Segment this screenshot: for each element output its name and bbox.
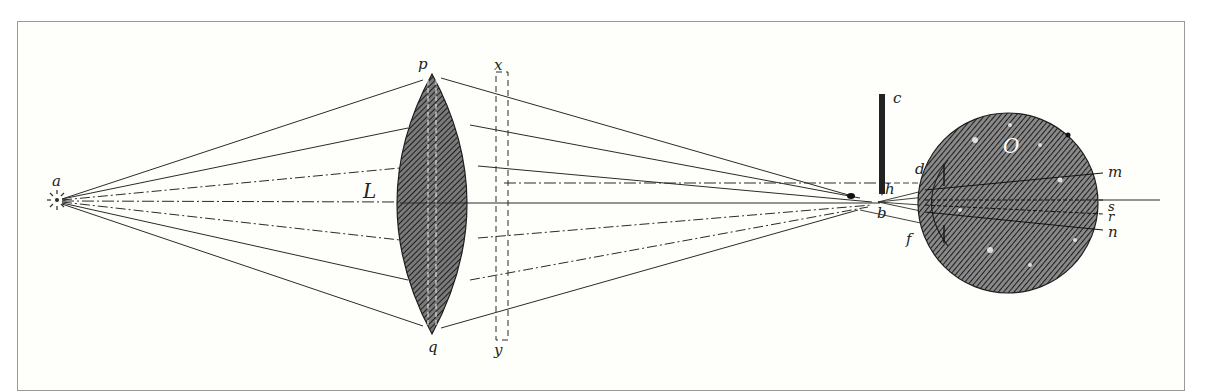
label-r: r bbox=[1108, 210, 1114, 223]
rod-c bbox=[879, 94, 885, 194]
label-f: f bbox=[906, 232, 912, 247]
label-b: b bbox=[877, 206, 887, 221]
label-d: d bbox=[915, 162, 925, 177]
lens-L bbox=[397, 74, 467, 334]
incoming-rays bbox=[62, 80, 423, 326]
screen-xy bbox=[496, 72, 508, 340]
label-h: h bbox=[885, 182, 895, 197]
label-x: x bbox=[494, 58, 502, 73]
label-q: q bbox=[428, 340, 438, 355]
label-c: c bbox=[893, 91, 901, 106]
label-a: a bbox=[52, 174, 61, 189]
label-O: O bbox=[1003, 136, 1019, 156]
label-y: y bbox=[494, 343, 502, 358]
label-L: L bbox=[363, 181, 376, 201]
point-source-icon bbox=[47, 190, 66, 210]
label-m: m bbox=[1108, 165, 1122, 180]
label-p: p bbox=[418, 57, 428, 72]
label-n: n bbox=[1108, 225, 1118, 240]
